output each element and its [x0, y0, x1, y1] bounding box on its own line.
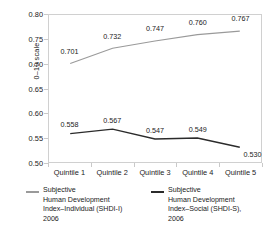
x-tick-mark: [176, 163, 177, 167]
data-label: 0.767: [232, 14, 250, 23]
y-tick-label: 0.50: [18, 159, 43, 168]
legend-item-shdi-s: Subjective Human Development Index–Socia…: [151, 186, 266, 234]
legend-line: 2006: [168, 215, 241, 225]
x-tick-label-quintile-2: Quintile 2: [91, 168, 134, 182]
plot-area: [48, 14, 262, 163]
legend-swatch-shdi-s: [151, 191, 164, 193]
x-tick-mark: [219, 163, 220, 167]
y-tick-label: 0.65: [18, 84, 43, 93]
data-label: 0.558: [60, 120, 78, 129]
data-label: 0.549: [189, 124, 207, 133]
data-label: 0.732: [103, 31, 121, 40]
plot-lines: [49, 15, 261, 162]
data-label: 0.567: [103, 115, 121, 124]
legend-line: Index–Social (SHDI-S),: [168, 205, 241, 215]
data-label: 0.747: [146, 24, 164, 33]
y-tick-label: 0.55: [18, 134, 43, 143]
chart-legend: Subjective Human Development Index–Indiv…: [26, 186, 266, 234]
chart-figure: 0–10 scale 0.80 0.75 0.70 0.65 0.60 0.55…: [0, 0, 273, 236]
y-tick-label: 0.80: [18, 10, 43, 19]
data-label: 0.547: [146, 125, 164, 134]
legend-label-shdi-i: Subjective Human Development Index–Indiv…: [43, 186, 122, 224]
y-tick-label: 0.60: [18, 109, 43, 118]
legend-line: Subjective: [168, 186, 241, 196]
data-label: 0.760: [189, 17, 207, 26]
x-tick-label-quintile-1: Quintile 1: [48, 168, 91, 182]
y-tick-label: 0.70: [18, 59, 43, 68]
legend-line: Human Development: [168, 196, 241, 206]
x-tick-label-quintile-4: Quintile 4: [176, 168, 219, 182]
x-tick-mark: [262, 163, 263, 167]
x-tick-mark: [48, 163, 49, 167]
x-axis-tick-labels: Quintile 1 Quintile 2 Quintile 3 Quintil…: [48, 168, 262, 182]
y-tick-label: 0.75: [18, 34, 43, 43]
data-label: 0.530: [244, 150, 262, 159]
x-tick-mark: [91, 163, 92, 167]
series-line-shdi-i: [70, 31, 240, 63]
legend-swatch-shdi-i: [26, 191, 39, 193]
x-tick-mark: [134, 163, 135, 167]
data-label: 0.701: [60, 47, 78, 56]
legend-line: Human Development: [43, 196, 122, 206]
x-tick-label-quintile-5: Quintile 5: [219, 168, 262, 182]
legend-line: Index–Individual (SHDI-I): [43, 205, 122, 215]
legend-item-shdi-i: Subjective Human Development Index–Indiv…: [26, 186, 141, 234]
legend-label-shdi-s: Subjective Human Development Index–Socia…: [168, 186, 241, 224]
legend-line: 2006: [43, 215, 122, 225]
x-tick-label-quintile-3: Quintile 3: [134, 168, 177, 182]
legend-line: Subjective: [43, 186, 122, 196]
